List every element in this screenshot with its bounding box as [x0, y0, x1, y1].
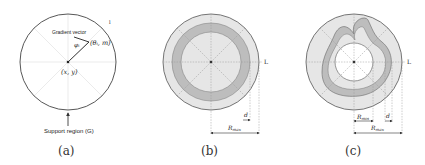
axis-l-label: L [264, 58, 268, 65]
figure: Gradient vector φᵢ (θᵢ, m) (x, y) l Supp… [0, 0, 425, 165]
angle-label: φᵢ [74, 41, 80, 49]
point-label: (θᵢ, m) [90, 39, 111, 47]
d-label: d [244, 111, 248, 118]
caption-a: (a) [58, 144, 75, 158]
support-region-label: Support region (G) [44, 128, 94, 134]
d-label: d [386, 112, 390, 119]
r-max-label: Rmax [370, 124, 385, 132]
r-min-label: Rmin [356, 113, 370, 121]
r-max-label: Rmax [227, 124, 242, 132]
center-label: (x, y) [61, 68, 78, 76]
panel-c: L Rmin d Rmax (c) [306, 14, 411, 158]
caption-b: (b) [201, 144, 218, 158]
axis-l-label: l [109, 19, 111, 25]
panel-a: Gradient vector φᵢ (θᵢ, m) (x, y) l Supp… [20, 14, 116, 158]
panel-b: L d Rmax (b) [163, 14, 268, 158]
gradient-vector-label: Gradient vector [52, 29, 87, 35]
axis-l-label: L [407, 58, 411, 65]
center-point [67, 61, 70, 64]
caption-c: (c) [345, 144, 361, 158]
